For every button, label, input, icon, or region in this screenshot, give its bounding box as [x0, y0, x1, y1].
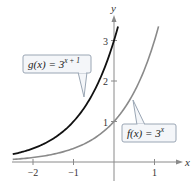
x-tick-label: −1 [68, 167, 79, 178]
f-label-callout: f(x) = 3x [122, 100, 176, 142]
g-label-base: g(x) = 3 [28, 58, 65, 71]
y-tick-label: 2 [103, 76, 108, 87]
y-axis-arrow-icon [112, 15, 117, 22]
y-axis-label: y [110, 2, 116, 14]
chart: −2−11 123 x y g(x) = 3x + 1 f(x) = 3x [0, 0, 192, 181]
y-tick-label: 3 [103, 36, 108, 47]
x-axis-arrow-icon [176, 160, 183, 165]
g-label-exp: x + 1 [63, 56, 80, 65]
y-ticks: 123 [103, 36, 117, 128]
x-tick-label: −2 [28, 167, 39, 178]
f-label-exp: x [160, 125, 165, 134]
x-axis-label: x [184, 156, 190, 168]
x-tick-label: 1 [152, 167, 157, 178]
svg-text:f(x) = 3x: f(x) = 3x [127, 125, 165, 140]
f-label-base: f(x) = 3 [127, 127, 161, 140]
y-tick-label: 1 [103, 117, 108, 128]
g-label-callout: g(x) = 3x + 1 [23, 55, 91, 97]
